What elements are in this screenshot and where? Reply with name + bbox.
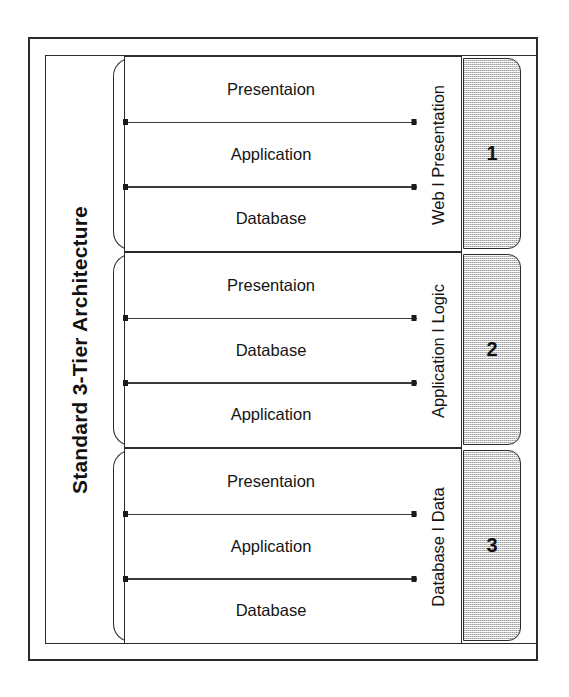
tier-3-side-label: Database I Data: [417, 448, 462, 644]
layer-row: Database: [125, 318, 417, 383]
tier-2-layers: Presentaion Database Application: [124, 252, 418, 448]
tier-side-label-text: Database I Data: [417, 449, 460, 644]
tier-1-side-label: Web I Presentation: [417, 56, 462, 252]
page-title: Standard 3-Tier Architecture: [46, 56, 114, 644]
layer-row: Application: [125, 382, 417, 447]
tier-number-badge: 2: [463, 254, 521, 445]
tier-group-1: Presentaion Application Database Web I P…: [113, 56, 522, 252]
tier-number-badge: 3: [463, 450, 521, 641]
tier-side-label-text: Application I Logic: [417, 253, 460, 448]
tier-stack: Presentaion Application Database Web I P…: [113, 56, 522, 644]
layer-row: Database: [125, 578, 417, 643]
tier-number-badge: 1: [463, 58, 521, 249]
layer-row: Application: [125, 122, 417, 187]
layer-row: Presentaion: [125, 253, 417, 318]
layer-row: Presentaion: [125, 57, 417, 122]
layer-row: Presentaion: [125, 449, 417, 514]
tier-side-label-text: Web I Presentation: [417, 57, 460, 252]
layer-row: Application: [125, 514, 417, 579]
tier-group-3: Presentaion Application Database Databas…: [113, 448, 522, 644]
tier-2-side-label: Application I Logic: [417, 252, 462, 448]
tier-group-2: Presentaion Database Application Applica…: [113, 252, 522, 448]
diagram-canvas: Standard 3-Tier Architecture Presentaion…: [0, 0, 569, 697]
layer-row: Database: [125, 186, 417, 251]
tier-3-layers: Presentaion Application Database: [124, 448, 418, 644]
tier-1-layers: Presentaion Application Database: [124, 56, 418, 252]
